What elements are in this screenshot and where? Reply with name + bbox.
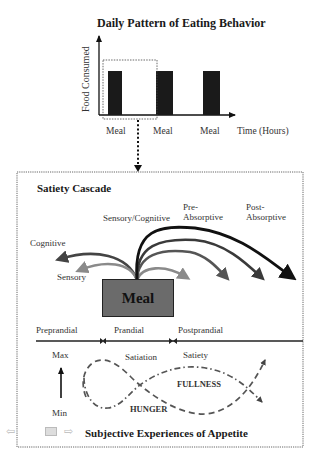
- appetite-title: Subjective Experiences of Appetite: [85, 427, 248, 439]
- scale-min: Min: [52, 408, 67, 418]
- forward-arrow-icon[interactable]: ⇨: [64, 426, 73, 437]
- screen-icon[interactable]: [45, 427, 57, 436]
- fullness-curve: [84, 367, 262, 408]
- top-chart-title: Daily Pattern of Eating Behavior: [97, 16, 266, 31]
- label-hunger: HUNGER: [130, 404, 167, 414]
- meal-box: Meal: [102, 279, 174, 317]
- y-axis-label: Food Consumed: [80, 46, 91, 112]
- label-satiety: Satiety: [183, 350, 208, 360]
- label-satiation: Satiation: [125, 352, 157, 362]
- label-sensory-cognitive: Sensory/Cognitive: [103, 213, 170, 223]
- back-arrow-icon[interactable]: ⇦: [6, 426, 15, 437]
- label-cognitive: Cognitive: [30, 238, 66, 248]
- diagram-graphics: [0, 0, 318, 455]
- timeline-postprandial: Postprandial: [178, 325, 223, 335]
- satiety-cascade-title: Satiety Cascade: [37, 182, 111, 194]
- hunger-curve: [83, 360, 265, 414]
- label-sensory: Sensory: [57, 272, 86, 282]
- x-axis-label: Time (Hours): [237, 126, 289, 136]
- timeline-preprandial: Preprandial: [36, 325, 77, 335]
- meal-bars: [108, 71, 220, 115]
- cascade-arrows: [60, 227, 292, 280]
- scale-max: Max: [52, 350, 69, 360]
- label-post-absorptive: Post- Absorptive: [246, 202, 286, 222]
- bar-label-2: Meal: [153, 126, 173, 136]
- timeline-prandial: Prandial: [114, 325, 144, 335]
- meal-box-label: Meal: [122, 290, 154, 307]
- bar-label-1: Meal: [106, 126, 126, 136]
- bar-label-3: Meal: [200, 126, 220, 136]
- label-pre-absorptive: Pre- Absorptive: [183, 202, 223, 222]
- label-fullness: FULLNESS: [177, 379, 221, 389]
- meal-timeline: [36, 338, 303, 344]
